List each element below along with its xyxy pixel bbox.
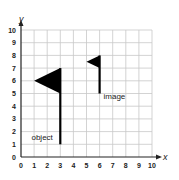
x-tick-label: 5 (85, 162, 89, 169)
x-tick-label: 9 (137, 162, 141, 169)
x-tick-label: 2 (45, 162, 49, 169)
x-axis-label: x (162, 152, 168, 162)
y-tick-label: 7 (12, 65, 16, 72)
y-tick-label: 5 (12, 90, 16, 97)
y-tick-label: 2 (12, 128, 16, 135)
y-tick-label: 9 (12, 39, 16, 46)
y-tick-label: 1 (12, 141, 16, 148)
x-tick-label: 0 (19, 162, 23, 169)
y-tick-label: 4 (12, 103, 16, 110)
y-tick-label: 3 (12, 115, 16, 122)
coordinate-grid: 012345678910012345678910 x y object imag… (0, 0, 179, 180)
y-tick-label: 6 (12, 77, 16, 84)
x-tick-label: 4 (71, 162, 75, 169)
y-tick-label: 0 (12, 154, 16, 161)
y-tick-label: 8 (12, 52, 16, 59)
image-flag (87, 55, 100, 93)
tick-labels: 012345678910012345678910 (8, 27, 156, 170)
x-tick-label: 8 (124, 162, 128, 169)
y-tick-label: 10 (8, 27, 16, 34)
object-label: object (31, 133, 53, 142)
x-tick-label: 10 (148, 162, 156, 169)
x-tick-label: 1 (32, 162, 36, 169)
flag-triangle (87, 55, 100, 68)
x-tick-label: 7 (111, 162, 115, 169)
x-tick-label: 6 (98, 162, 102, 169)
image-label: image (104, 92, 126, 101)
y-axis-label: y (18, 14, 24, 24)
x-tick-label: 3 (58, 162, 62, 169)
